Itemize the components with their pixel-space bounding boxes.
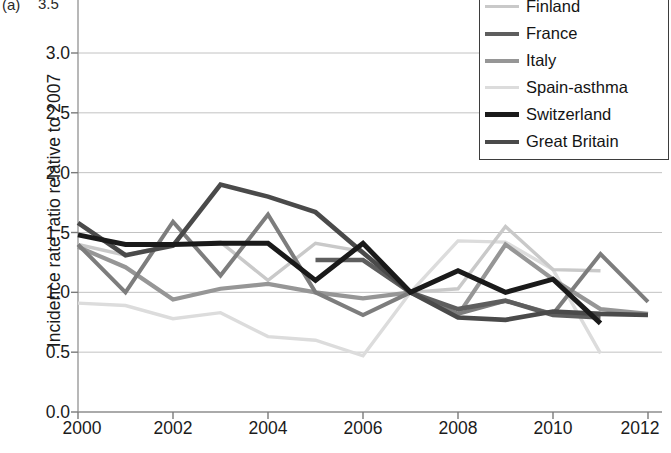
x-tick-label: 2002 <box>154 418 193 439</box>
legend-item-label: Switzerland <box>526 106 611 123</box>
legend-item-label: Finland <box>526 0 580 15</box>
x-tick-label: 2006 <box>344 418 383 439</box>
chart-figure: (a) 3.5 Incidence rate ratio relative to… <box>0 0 671 453</box>
legend-item[interactable]: Great Britain <box>485 128 664 155</box>
legend-item[interactable]: Switzerland <box>485 101 664 128</box>
x-tick-label: 2008 <box>439 418 478 439</box>
x-tick-label: 2004 <box>249 418 288 439</box>
legend-swatch-icon <box>485 112 519 117</box>
legend-item[interactable]: Spain-asthma <box>485 74 664 101</box>
legend-item-label: France <box>526 25 577 42</box>
legend-item[interactable]: France <box>485 20 664 47</box>
x-tick-label: 2010 <box>534 418 573 439</box>
legend-item[interactable]: Italy <box>485 47 664 74</box>
legend-swatch-icon <box>485 86 519 89</box>
x-tick-label: 2012 <box>621 418 660 439</box>
legend-item-label: Italy <box>526 52 556 69</box>
legend-item[interactable]: Finland <box>485 0 664 20</box>
legend-swatch-icon <box>485 5 519 8</box>
legend-item-label: Great Britain <box>526 133 619 150</box>
chart-legend: Czech RepFinlandFranceItalySpain-asthmaS… <box>479 0 669 160</box>
legend-swatch-icon <box>485 32 519 36</box>
legend-swatch-icon <box>485 140 519 144</box>
legend-swatch-icon <box>485 59 519 63</box>
x-tick-label: 2000 <box>63 418 102 439</box>
legend-item-label: Spain-asthma <box>526 79 628 96</box>
